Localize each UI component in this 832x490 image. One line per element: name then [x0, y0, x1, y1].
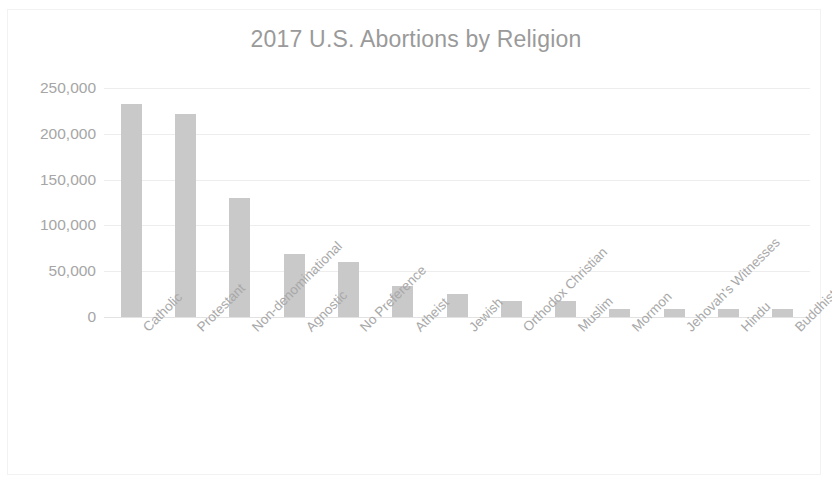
- x-axis-tick-label: Orthodox Christian: [520, 324, 531, 335]
- x-axis-tick-label: No Preference: [357, 324, 368, 335]
- x-axis-tick-label: Non-denominational: [249, 324, 260, 335]
- x-axis-tick-label: Catholic: [140, 324, 151, 335]
- x-axis-tick-label: Mormon: [629, 324, 640, 335]
- x-axis-tick-label: Jehovah's Witnesses: [683, 324, 694, 335]
- x-axis-tick-label: Atheist: [412, 324, 423, 335]
- chart-screenshot: 2017 U.S. Abortions by Religion 050,0001…: [0, 0, 832, 490]
- x-axis: CatholicProtestantNon-denominationalAgno…: [0, 0, 832, 490]
- x-axis-tick-label: Buddhist: [792, 324, 803, 335]
- x-axis-tick-label: Protestant: [194, 324, 205, 335]
- x-axis-tick-label: Agnostic: [303, 324, 314, 335]
- x-axis-tick-label: Jewish: [466, 324, 477, 335]
- x-axis-tick-label: Muslim: [575, 324, 586, 335]
- x-axis-tick-label: Hindu: [738, 324, 749, 335]
